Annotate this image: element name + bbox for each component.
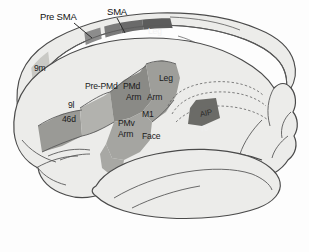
label-m1-arm: Arm bbox=[147, 93, 162, 102]
label-pmv: PMv bbox=[118, 119, 135, 128]
label-pmv-arm: Arm bbox=[118, 130, 133, 139]
label-face: Face bbox=[142, 132, 160, 141]
label-sma: SMA bbox=[107, 7, 127, 17]
label-leg-medial: Leg bbox=[148, 27, 162, 36]
label-leg-lateral: Leg bbox=[159, 74, 173, 83]
label-m1: M1 bbox=[142, 110, 154, 119]
brain-diagram-figure: Pre SMA SMA Leg 9m Pre-PMd PMd Arm Arm L… bbox=[0, 0, 309, 252]
label-pre-sma: Pre SMA bbox=[40, 12, 77, 22]
label-pmd: PMd bbox=[123, 82, 140, 91]
label-pmd-arm: Arm bbox=[126, 93, 141, 102]
lateral-hemisphere-group bbox=[14, 38, 298, 219]
brain-lateral-view-svg bbox=[0, 0, 309, 252]
label-9l: 9l bbox=[68, 101, 74, 110]
label-9m: 9m bbox=[34, 64, 46, 73]
label-46d: 46d bbox=[62, 115, 76, 124]
label-pre-pmd: Pre-PMd bbox=[85, 82, 118, 91]
